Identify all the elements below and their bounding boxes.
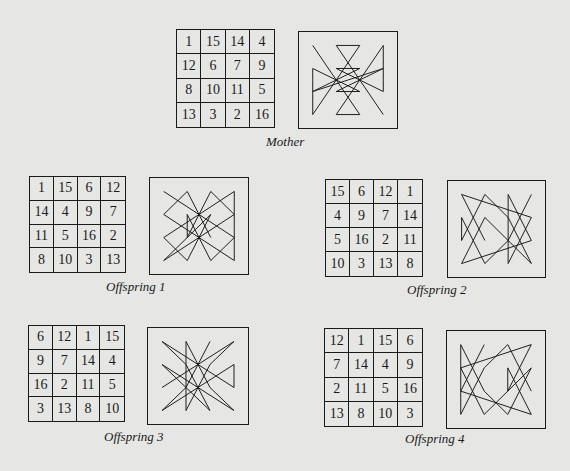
grid-cell: 6	[350, 180, 374, 204]
offspring-1-line-pattern	[149, 177, 249, 275]
grid-cell: 11	[30, 225, 54, 249]
offspring-1-caption: Offspring 1	[106, 279, 166, 295]
grid-cell: 13	[101, 248, 125, 272]
grid-cell: 6	[78, 177, 102, 201]
grid-cell: 8	[77, 397, 101, 421]
number-path-line	[461, 345, 532, 415]
grid-cell: 12	[374, 180, 398, 204]
grid-cell: 9	[250, 54, 274, 78]
offspring-1-magic-square: 11561214497115162810313	[29, 176, 126, 273]
grid-cell: 4	[326, 204, 350, 228]
grid-cell: 16	[250, 103, 274, 127]
grid-cell: 9	[398, 353, 422, 377]
grid-cell: 8	[30, 248, 54, 272]
grid-cell: 8	[349, 402, 373, 426]
grid-cell: 13	[177, 103, 201, 127]
grid-cell: 8	[177, 79, 201, 103]
grid-cell: 9	[78, 201, 102, 225]
grid-cell: 2	[53, 374, 77, 398]
grid-cell: 1	[177, 30, 201, 54]
offspring-4-caption: Offspring 4	[405, 431, 465, 447]
grid-cell: 1	[30, 177, 54, 201]
grid-cell: 1	[398, 180, 422, 204]
grid-cell: 7	[374, 204, 398, 228]
grid-cell: 14	[77, 350, 101, 374]
grid-cell: 6	[29, 326, 53, 350]
grid-cell: 10	[326, 252, 350, 276]
grid-cell: 16	[350, 228, 374, 252]
grid-cell: 12	[325, 329, 349, 353]
grid-cell: 4	[374, 353, 398, 377]
grid-cell: 9	[29, 350, 53, 374]
grid-cell: 14	[30, 201, 54, 225]
grid-cell: 16	[398, 378, 422, 402]
number-path-line	[462, 194, 532, 263]
mother-caption: Mother	[266, 134, 304, 150]
grid-cell: 7	[226, 54, 250, 78]
grid-cell: 2	[101, 225, 125, 249]
grid-cell: 2	[226, 103, 250, 127]
grid-cell: 3	[201, 103, 225, 127]
offspring-3-caption: Offspring 3	[104, 429, 164, 445]
grid-cell: 15	[374, 329, 398, 353]
offspring-3-magic-square: 61211597144162115313810	[28, 325, 125, 422]
offspring-2-line-pattern	[447, 180, 546, 278]
grid-cell: 14	[398, 204, 422, 228]
grid-cell: 9	[350, 204, 374, 228]
offspring-4-magic-square: 12115671449211516138103	[324, 328, 423, 427]
grid-cell: 1	[77, 326, 101, 350]
grid-cell: 10	[201, 79, 225, 103]
number-path-line	[164, 191, 235, 260]
grid-cell: 3	[350, 252, 374, 276]
offspring-2-caption: Offspring 2	[407, 282, 467, 298]
grid-cell: 4	[54, 201, 78, 225]
number-path-line	[313, 45, 384, 114]
grid-cell: 14	[226, 30, 250, 54]
grid-cell: 3	[398, 402, 422, 426]
mother-magic-square: 11514412679810115133216	[176, 29, 275, 128]
grid-cell: 6	[398, 329, 422, 353]
grid-cell: 12	[53, 326, 77, 350]
grid-cell: 11	[77, 374, 101, 398]
grid-cell: 10	[100, 397, 124, 421]
grid-cell: 11	[349, 378, 373, 402]
grid-cell: 10	[374, 402, 398, 426]
grid-cell: 3	[29, 397, 53, 421]
grid-cell: 1	[349, 329, 373, 353]
grid-cell: 7	[53, 350, 77, 374]
offspring-2-magic-square: 15612149714516211103138	[325, 179, 423, 277]
grid-cell: 12	[177, 54, 201, 78]
grid-cell: 15	[100, 326, 124, 350]
grid-cell: 15	[326, 180, 350, 204]
grid-cell: 12	[101, 177, 125, 201]
grid-cell: 5	[326, 228, 350, 252]
grid-cell: 11	[226, 79, 250, 103]
grid-cell: 13	[325, 402, 349, 426]
grid-cell: 7	[325, 353, 349, 377]
grid-cell: 5	[100, 374, 124, 398]
number-path-line	[162, 341, 234, 410]
grid-cell: 7	[101, 201, 125, 225]
grid-cell: 15	[201, 30, 225, 54]
grid-cell: 15	[54, 177, 78, 201]
grid-cell: 16	[29, 374, 53, 398]
offspring-4-line-pattern	[446, 330, 546, 429]
grid-cell: 4	[100, 350, 124, 374]
grid-cell: 5	[54, 225, 78, 249]
grid-cell: 10	[54, 248, 78, 272]
grid-cell: 16	[78, 225, 102, 249]
grid-cell: 8	[398, 252, 422, 276]
grid-cell: 2	[325, 378, 349, 402]
grid-cell: 11	[398, 228, 422, 252]
grid-cell: 13	[53, 397, 77, 421]
mother-line-pattern	[298, 31, 398, 129]
grid-cell: 2	[374, 228, 398, 252]
grid-cell: 5	[250, 79, 274, 103]
grid-cell: 3	[78, 248, 102, 272]
offspring-3-line-pattern	[147, 327, 249, 425]
grid-cell: 13	[374, 252, 398, 276]
grid-cell: 14	[349, 353, 373, 377]
grid-cell: 5	[374, 378, 398, 402]
grid-cell: 6	[201, 54, 225, 78]
grid-cell: 4	[250, 30, 274, 54]
